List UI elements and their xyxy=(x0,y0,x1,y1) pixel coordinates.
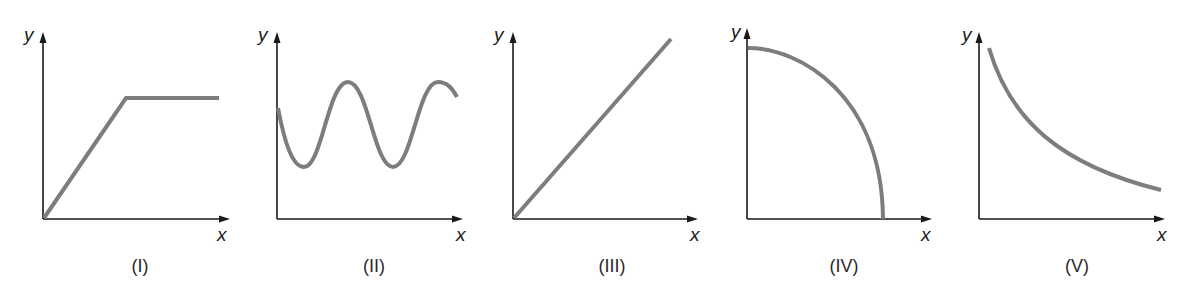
y-axis-label: y xyxy=(962,25,972,44)
x-axis-arrow-icon xyxy=(452,216,463,223)
caption-4: (IV) xyxy=(830,257,859,275)
y-axis-arrow-icon xyxy=(976,32,983,43)
caption-2: (II) xyxy=(363,257,385,275)
x-axis-arrow-icon xyxy=(219,216,230,223)
graph-3 xyxy=(510,32,699,223)
curve-3 xyxy=(514,39,671,218)
x-axis-arrow-icon xyxy=(1154,216,1165,223)
y-axis-label: y xyxy=(494,25,504,44)
graph-1 xyxy=(40,32,231,223)
y-axis-label: y xyxy=(731,22,741,41)
caption-1: (I) xyxy=(132,257,149,275)
graph-2 xyxy=(274,32,464,223)
graph-4 xyxy=(744,28,933,223)
x-axis-label: x xyxy=(690,225,700,244)
figure xyxy=(0,0,1183,294)
curve-5 xyxy=(989,48,1161,190)
y-axis-arrow-icon xyxy=(274,32,281,43)
y-axis-arrow-icon xyxy=(40,32,47,43)
curve-4 xyxy=(748,48,883,219)
caption-3: (III) xyxy=(599,257,626,275)
curve-1 xyxy=(44,98,219,218)
curve-2 xyxy=(278,82,457,167)
y-axis-label: y xyxy=(258,25,268,44)
x-axis-label: x xyxy=(456,225,466,244)
caption-5: (V) xyxy=(1065,257,1089,275)
x-axis-label: x xyxy=(217,225,227,244)
x-axis-label: x xyxy=(1157,225,1167,244)
x-axis-label: x xyxy=(921,225,931,244)
graph-5 xyxy=(976,32,1166,223)
y-axis-label: y xyxy=(24,25,34,44)
y-axis-arrow-icon xyxy=(744,28,751,39)
x-axis-arrow-icon xyxy=(921,216,932,223)
y-axis-arrow-icon xyxy=(510,32,517,43)
x-axis-arrow-icon xyxy=(687,216,698,223)
